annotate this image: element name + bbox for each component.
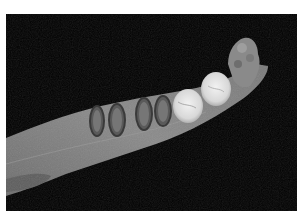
mandible-photo: [6, 14, 297, 211]
photo-frame: [6, 14, 297, 211]
